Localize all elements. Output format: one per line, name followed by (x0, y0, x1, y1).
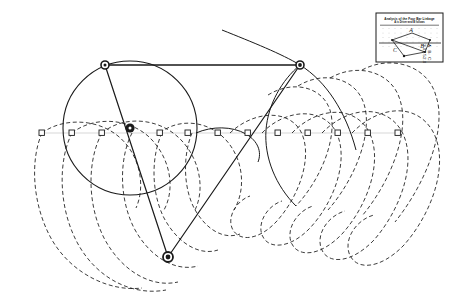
tracing-point-marker (245, 130, 250, 135)
linkage-diagram-canvas: Analysis of the Four Bar Linkage A is Dr… (0, 0, 469, 308)
legend-subtitle-line2: A is Driver and B follows (394, 20, 425, 24)
legend-key-list: A: 3.0 B: 2.5 C: 2.0 (422, 44, 432, 64)
legend-node-label-a: A (408, 27, 413, 33)
coupler-pin-joint-right (296, 61, 304, 69)
pin-joints (101, 61, 304, 262)
tracing-point-marker (335, 130, 340, 135)
crank-link-left (105, 65, 168, 257)
tracing-point-marker (157, 130, 162, 135)
legend-title-line1: Analysis of the Four Bar Linkage (384, 17, 435, 21)
tracing-point-marker (395, 130, 400, 135)
legend-key-c-value: 2.0 (422, 57, 427, 64)
figure-root: Analysis of the Four Bar Linkage A is Dr… (0, 0, 469, 308)
tracing-point-marker (185, 130, 190, 135)
tracing-point-marker (215, 130, 220, 135)
coupler-curve-fan-right (230, 63, 440, 265)
tracing-point-marker (275, 130, 280, 135)
crank-pin-joint-left (101, 61, 109, 69)
linkage-bars (40, 65, 402, 257)
tracing-point-marker (69, 130, 74, 135)
tracing-point-marker (39, 130, 44, 135)
legend-box: Analysis of the Four Bar Linkage A is Dr… (376, 13, 443, 64)
tracing-point-marker (305, 130, 310, 135)
tracing-point-marker (99, 130, 104, 135)
ground-pivot-joint (163, 252, 173, 262)
crank-center-hub (125, 123, 134, 132)
tracing-point-markers (39, 130, 400, 135)
tracing-point-marker (365, 130, 370, 135)
